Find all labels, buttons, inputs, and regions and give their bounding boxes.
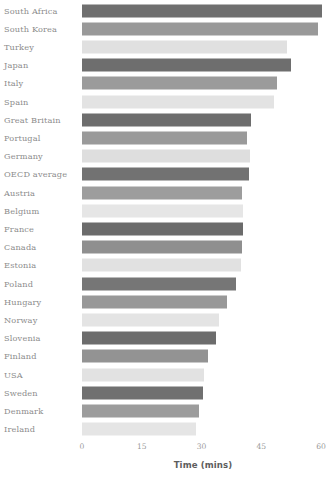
bar-row: Sweden xyxy=(0,383,332,402)
bar xyxy=(82,150,250,163)
bar-row: Finland xyxy=(0,347,332,366)
x-axis-tick-label: 30 xyxy=(197,443,207,451)
bar-category-label: Finland xyxy=(4,352,37,360)
bar xyxy=(82,22,318,35)
bar-category-label: Slovenia xyxy=(4,334,41,342)
bar-row: Poland xyxy=(0,274,332,293)
bar-category-label: USA xyxy=(4,370,23,378)
bar-category-label: Canada xyxy=(4,243,36,251)
bar-category-label: Ireland xyxy=(4,425,35,433)
bar-category-label: Poland xyxy=(4,279,33,287)
bar xyxy=(82,186,242,199)
bar-row: Ireland xyxy=(0,420,332,439)
x-axis-tick-label: 60 xyxy=(316,443,326,451)
bar-category-label: South Korea xyxy=(4,25,57,33)
bar xyxy=(82,332,216,345)
bar xyxy=(82,404,199,417)
bar xyxy=(82,4,322,17)
bar-category-label: Germany xyxy=(4,152,43,160)
bar-row: Estonia xyxy=(0,256,332,275)
bar-row: Norway xyxy=(0,310,332,329)
bar-row: Italy xyxy=(0,74,332,93)
bar-row: Germany xyxy=(0,147,332,166)
bar-row: Hungary xyxy=(0,292,332,311)
bar xyxy=(82,131,247,144)
bar xyxy=(82,113,251,126)
bar xyxy=(82,204,243,217)
bar-category-label: South Africa xyxy=(4,6,58,14)
plot-area: South AfricaSouth KoreaTurkeyJapanItalyS… xyxy=(0,0,332,438)
bar-category-label: Sweden xyxy=(4,389,38,397)
bar-row: France xyxy=(0,219,332,238)
bar-category-label: Estonia xyxy=(4,261,36,269)
bar-category-label: Turkey xyxy=(4,43,34,51)
x-axis-title: Time (mins) xyxy=(0,461,332,470)
bar-row: Portugal xyxy=(0,128,332,147)
bar-category-label: France xyxy=(4,225,34,233)
bar-row: Belgium xyxy=(0,201,332,220)
bar-row: Austria xyxy=(0,183,332,202)
bar-row: USA xyxy=(0,365,332,384)
bar-category-label: Japan xyxy=(4,61,28,69)
bar xyxy=(82,95,274,108)
x-axis: Time (mins) 015304560 xyxy=(0,438,332,482)
bar xyxy=(82,241,242,254)
x-axis-tick-label: 45 xyxy=(256,443,266,451)
bar-row: OECD average xyxy=(0,165,332,184)
bar xyxy=(82,368,204,381)
bar xyxy=(82,386,203,399)
bar-category-label: Hungary xyxy=(4,298,41,306)
bar-row: Denmark xyxy=(0,401,332,420)
bar-category-label: Portugal xyxy=(4,134,41,142)
bar-row: Japan xyxy=(0,56,332,75)
x-axis-tick-label: 0 xyxy=(80,443,85,451)
x-axis-title-text: Time (mins) xyxy=(174,460,233,470)
bar xyxy=(82,259,241,272)
bar-row: South Africa xyxy=(0,1,332,20)
bar-category-label: Austria xyxy=(4,188,35,196)
bar xyxy=(82,77,277,90)
bar xyxy=(82,59,291,72)
bar-row: Spain xyxy=(0,92,332,111)
horizontal-bar-chart: South AfricaSouth KoreaTurkeyJapanItalyS… xyxy=(0,0,332,482)
bar-category-label: Belgium xyxy=(4,207,39,215)
bar xyxy=(82,423,196,436)
x-axis-tick-label: 15 xyxy=(137,443,147,451)
bar-category-label: Norway xyxy=(4,316,37,324)
bar-category-label: Spain xyxy=(4,97,28,105)
bar-row: South Korea xyxy=(0,19,332,38)
bar xyxy=(82,40,287,53)
bar xyxy=(82,313,219,326)
bar xyxy=(82,222,243,235)
bar-row: Slovenia xyxy=(0,329,332,348)
bar xyxy=(82,168,249,181)
bar xyxy=(82,295,227,308)
bar-row: Turkey xyxy=(0,37,332,56)
bar-category-label: Italy xyxy=(4,79,23,87)
bar-row: Great Britain xyxy=(0,110,332,129)
bar-row: Canada xyxy=(0,238,332,257)
bar-category-label: OECD average xyxy=(4,170,67,178)
bar xyxy=(82,350,208,363)
bar xyxy=(82,277,236,290)
bar-category-label: Denmark xyxy=(4,407,43,415)
bar-category-label: Great Britain xyxy=(4,116,61,124)
